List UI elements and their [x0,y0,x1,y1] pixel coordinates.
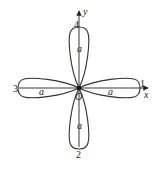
origin-label: O [75,91,82,102]
tip-label-left: 3 [13,83,18,94]
length-label-top: a [77,43,82,54]
tip-label-right: 1 [140,78,145,89]
length-label-bottom: a [77,120,82,131]
tip-label-bottom: 2 [76,149,81,160]
x-axis-label: x [143,89,149,100]
origin-point [77,86,82,91]
tip-label-top: 4 [74,19,79,30]
length-label-left: a [39,86,44,97]
rose-curve-diagram: y x O 4 2 3 1 a a a a [0,0,161,171]
diagram-canvas: y x O 4 2 3 1 a a a a [0,0,161,171]
y-axis-label: y [82,6,88,17]
length-label-right: a [108,86,113,97]
